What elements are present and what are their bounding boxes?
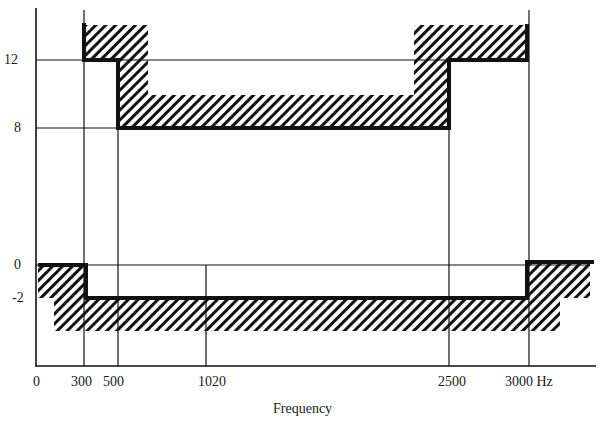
x-tick-2500: 2500 (438, 374, 466, 390)
y-tick-0: 0 (14, 257, 21, 273)
x-axis-title: Frequency (273, 401, 332, 417)
y-tick-12: 12 (4, 52, 18, 68)
x-tick-3000: 3000 Hz (505, 374, 553, 390)
lower-mask-line (38, 262, 594, 298)
upper-hatched-region (84, 25, 529, 128)
mask-diagram (0, 0, 606, 422)
x-tick-500: 500 (103, 374, 124, 390)
x-tick-300: 300 (71, 374, 92, 390)
x-tick-0: 0 (33, 374, 40, 390)
x-tick-1020: 1020 (198, 374, 226, 390)
y-tick-8: 8 (14, 120, 21, 136)
y-tick-neg2: -2 (12, 290, 24, 306)
